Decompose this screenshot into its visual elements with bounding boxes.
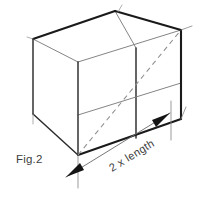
technical-drawing-svg: Fig.2 2 x length — [0, 0, 199, 197]
tick-top-back-left — [27, 37, 33, 39]
tick-top-back-right — [118, 5, 122, 12]
figure-caption: Fig.2 — [16, 153, 43, 165]
figure-canvas: Fig.2 2 x length — [0, 0, 199, 197]
arrowhead-left-icon — [66, 163, 84, 177]
extension-line-right-upper — [181, 26, 192, 30]
